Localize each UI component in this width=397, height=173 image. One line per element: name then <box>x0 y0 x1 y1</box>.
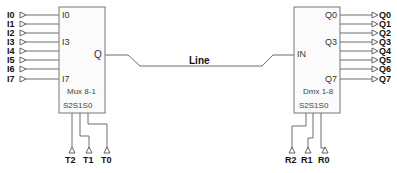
label-Q7: Q7 <box>379 74 391 84</box>
dmx-title: Dmx 1-8 <box>303 87 333 96</box>
dmx-port-Q7: Q7 <box>325 74 337 84</box>
dmx-port-Q0: Q0 <box>325 10 337 20</box>
label-T0: T0 <box>101 155 112 165</box>
label-R0: R0 <box>318 155 330 165</box>
mux-port-I3: I3 <box>62 37 70 47</box>
label-R1: R1 <box>301 155 313 165</box>
label-T1: T1 <box>83 155 94 165</box>
line-label: Line <box>189 55 210 66</box>
label-I6: I6 <box>7 64 15 74</box>
label-I7: I7 <box>7 74 15 84</box>
label-Q6: Q6 <box>379 64 391 74</box>
mux-port-Q: Q <box>94 49 102 60</box>
dmx-port-IN: IN <box>297 49 306 59</box>
label-R2: R2 <box>285 155 297 165</box>
mux-title: Mux 8-1 <box>67 87 96 96</box>
dmx-port-Q3: Q3 <box>325 37 337 47</box>
mux-port-I7: I7 <box>62 74 70 84</box>
dmx-select-label: S2S1S0 <box>299 101 328 110</box>
mux-select-label: S2S1S0 <box>63 101 92 110</box>
mux-port-I0: I0 <box>62 10 70 20</box>
label-T2: T2 <box>65 155 76 165</box>
